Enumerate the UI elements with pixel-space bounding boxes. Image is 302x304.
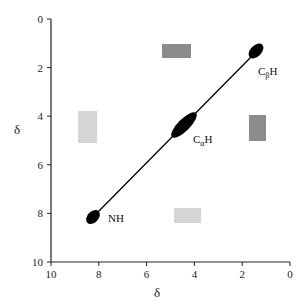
x-tick-labels: 10 8 6 4 2 0 <box>46 268 294 280</box>
label-cbeta-main: C <box>258 65 265 77</box>
y-tick-label: 4 <box>38 110 44 122</box>
x-tick-label: 2 <box>239 268 245 280</box>
y-tick-labels: 0 2 4 6 8 10 <box>32 13 44 268</box>
x-tick-label: 8 <box>96 268 102 280</box>
peak-cbeta-h <box>246 41 267 62</box>
cross-peak-lower <box>174 208 201 223</box>
nmr-2d-spectrum-chart: 0 2 4 6 8 10 10 8 6 4 2 0 δ δ NH <box>0 0 302 304</box>
x-tick-label: 6 <box>144 268 150 280</box>
label-calpha-tail: H <box>205 133 213 145</box>
cross-peak-upper <box>162 44 191 58</box>
cross-peak-right <box>249 115 266 141</box>
x-tick-label: 10 <box>46 268 58 280</box>
cross-peak-left <box>78 111 97 143</box>
y-axis-label: δ <box>14 122 20 137</box>
y-tick-label: 2 <box>38 62 44 74</box>
label-cbeta-h: CβH <box>258 65 277 80</box>
x-tick-label: 0 <box>287 268 293 280</box>
label-cbeta-tail: H <box>269 65 277 77</box>
x-axis-label: δ <box>154 285 160 300</box>
y-tick-label: 8 <box>38 207 44 219</box>
label-calpha-h: CαH <box>193 133 213 148</box>
label-calpha-main: C <box>193 133 200 145</box>
x-tick-label: 4 <box>192 268 198 280</box>
label-nh: NH <box>108 212 124 224</box>
y-tick-label: 10 <box>32 256 44 268</box>
y-tick-label: 6 <box>38 159 44 171</box>
y-tick-label: 0 <box>38 13 44 25</box>
